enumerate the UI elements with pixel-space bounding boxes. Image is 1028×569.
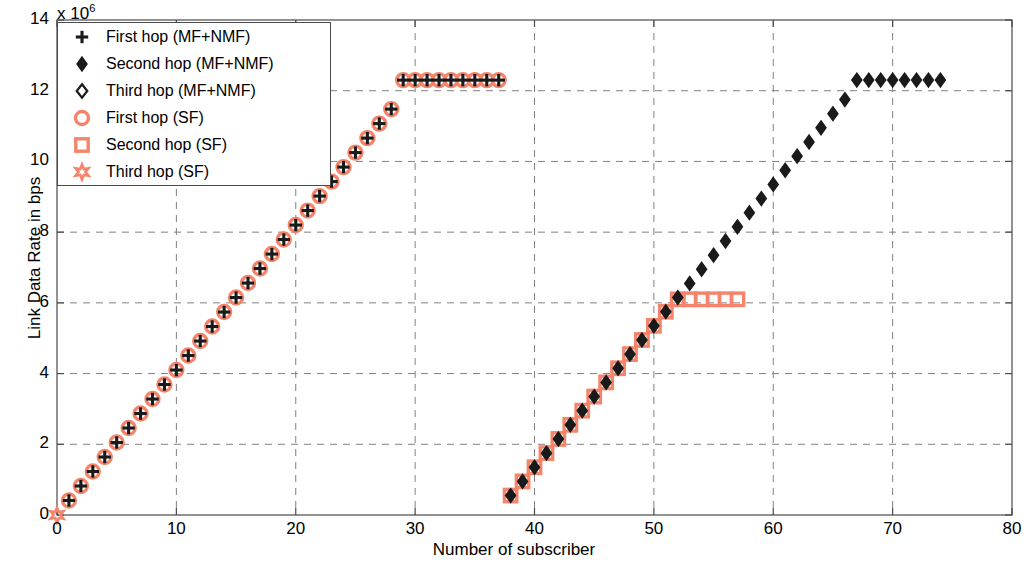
y-tick-label: 12: [9, 80, 49, 100]
y-tick-label: 8: [9, 221, 49, 241]
legend-label: First hop (MF+NMF): [106, 28, 250, 46]
y-tick-label: 2: [9, 433, 49, 453]
y-tick-label: 4: [9, 363, 49, 383]
y-tick-label: 14: [9, 9, 49, 29]
circle-open-icon: [58, 106, 106, 130]
x-tick-label: 30: [395, 519, 435, 539]
legend-entry: Second hop (SF): [58, 131, 330, 158]
legend-label: Third hop (SF): [106, 163, 209, 181]
legend-entry: Third hop (MF+NMF): [58, 77, 330, 104]
legend-entry: First hop (MF+NMF): [58, 23, 330, 50]
legend-label: Third hop (MF+NMF): [106, 82, 256, 100]
legend-label: First hop (SF): [106, 109, 204, 127]
x-tick-label: 70: [873, 519, 913, 539]
legend-entry: Third hop (SF): [58, 158, 330, 185]
series-second-hop-mf-nmf: [506, 73, 946, 502]
legend-entry: First hop (SF): [58, 104, 330, 131]
x-tick-label: 80: [992, 519, 1028, 539]
series-second-hop-sf: [504, 293, 743, 502]
x-tick-label: 10: [156, 519, 196, 539]
legend-label: Second hop (SF): [106, 136, 227, 154]
square-open-icon: [58, 133, 106, 157]
y-tick-label: 0: [9, 504, 49, 524]
chart-figure: x 106 Link Data Rate in bps Number of su…: [0, 0, 1028, 569]
diamond-filled-icon: [58, 52, 106, 76]
legend-entry: Second hop (MF+NMF): [58, 50, 330, 77]
plus-icon: [58, 25, 106, 49]
x-tick-label: 20: [276, 519, 316, 539]
y-tick-label: 6: [9, 292, 49, 312]
diamond-open-icon: [58, 79, 106, 103]
y-tick-label: 10: [9, 150, 49, 170]
x-tick-label: 40: [515, 519, 555, 539]
x-tick-label: 50: [634, 519, 674, 539]
chart-legend: First hop (MF+NMF)Second hop (MF+NMF)Thi…: [57, 22, 331, 186]
star-open-icon: [58, 160, 106, 184]
x-tick-label: 60: [753, 519, 793, 539]
legend-label: Second hop (MF+NMF): [106, 55, 274, 73]
